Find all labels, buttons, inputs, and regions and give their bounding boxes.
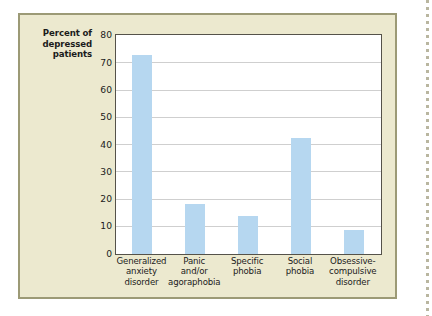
y-axis-title: Percent ofdepressedpatients (22, 28, 92, 60)
x-axis-category-label-line: phobia (221, 266, 274, 276)
y-axis-tick-label: 60 (92, 85, 112, 94)
y-axis-title-line: patients (22, 49, 92, 60)
x-axis-category-label-line: agoraphobia (168, 277, 221, 287)
x-axis-category-label-line: Social (274, 256, 327, 266)
y-axis-tick-label: 50 (92, 113, 112, 122)
bar (132, 55, 152, 254)
bar (291, 138, 311, 254)
x-axis-category-labels: GeneralizedanxietydisorderPanicand/orago… (115, 256, 382, 301)
bar-chart: Percent ofdepressedpatients 010203040506… (20, 15, 395, 297)
x-axis-category-label: Generalizedanxietydisorder (115, 256, 168, 287)
x-axis-category-label-line: and/or (168, 266, 221, 276)
y-axis-tick-label: 20 (92, 194, 112, 203)
x-axis-category-label-line: disorder (115, 277, 168, 287)
y-axis-tick-label: 30 (92, 167, 112, 176)
x-axis-category-label-line: compulsive (326, 266, 379, 276)
x-axis-category-label: Panicand/oragoraphobia (168, 256, 221, 287)
y-axis-title-line: depressed (22, 39, 92, 50)
x-axis-category-label-line: Specific (221, 256, 274, 266)
y-axis-tick-label: 70 (92, 58, 112, 67)
bar (344, 230, 364, 254)
y-axis-tick-label: 40 (92, 140, 112, 149)
x-axis-category-label-line: Panic (168, 256, 221, 266)
y-axis-tick-label: 0 (92, 249, 112, 258)
x-axis-category-label: Specificphobia (221, 256, 274, 277)
x-axis-category-label-line: anxiety (115, 266, 168, 276)
y-axis-tick-label: 10 (92, 222, 112, 231)
plot-area (115, 34, 382, 255)
figure-panel: Percent ofdepressedpatients 010203040506… (18, 13, 397, 299)
x-axis-category-label: Obsessive-compulsivedisorder (326, 256, 379, 287)
y-axis-tick-labels: 01020304050607080 (92, 15, 112, 301)
bar-series (116, 35, 381, 254)
page-edge-dotted-rule (426, 0, 429, 316)
y-axis-tick-label: 80 (92, 31, 112, 40)
x-axis-category-label-line: Generalized (115, 256, 168, 266)
x-axis-category-label-line: Obsessive- (326, 256, 379, 266)
y-axis-title-line: Percent of (22, 28, 92, 39)
bar (185, 204, 205, 254)
x-axis-category-label-line: phobia (274, 266, 327, 276)
x-axis-category-label-line: disorder (326, 277, 379, 287)
x-axis-category-label: Socialphobia (274, 256, 327, 277)
bar (238, 216, 258, 254)
